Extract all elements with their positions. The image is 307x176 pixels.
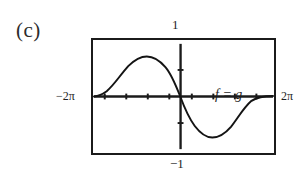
part-label: (c) xyxy=(16,20,41,41)
y-axis-max-label: 1 xyxy=(172,18,179,31)
plot-canvas xyxy=(93,40,274,153)
y-axis-min-label: −1 xyxy=(170,157,184,170)
figure-panel: (c) xyxy=(0,0,307,176)
x-axis-min-label: −2π xyxy=(56,90,75,102)
plot-viewing-window: f = g xyxy=(91,38,276,155)
curve-annotation-label: f = g xyxy=(215,88,242,102)
x-axis-max-label: 2π xyxy=(281,90,293,102)
